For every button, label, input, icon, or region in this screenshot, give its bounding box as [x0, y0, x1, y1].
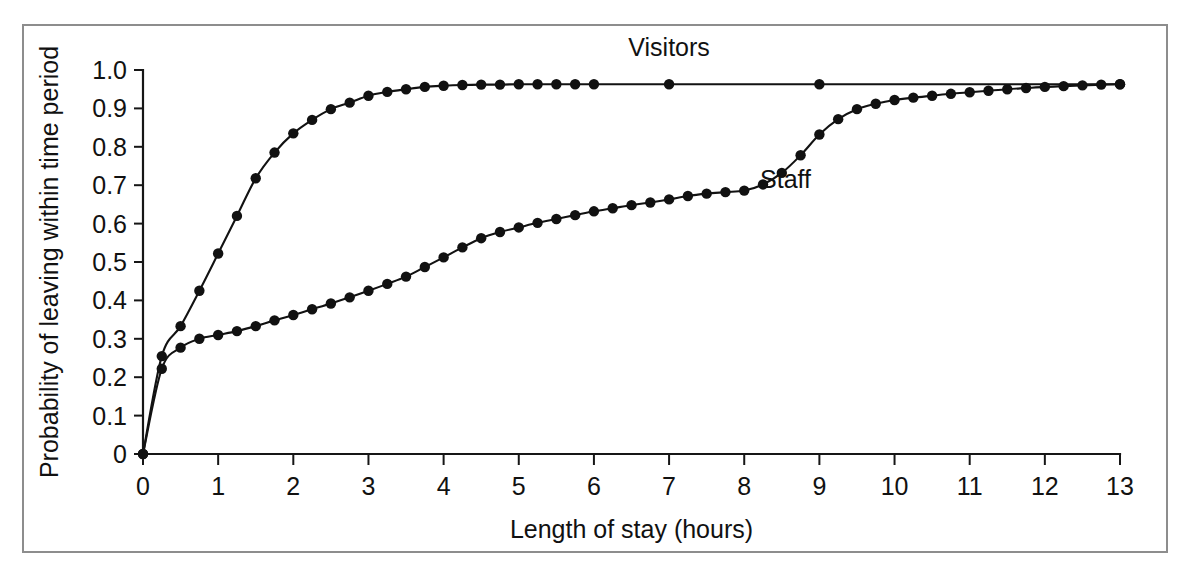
series-point-staff	[645, 197, 655, 207]
y-tick-label: 0.8	[92, 133, 127, 161]
series-point-staff	[495, 227, 505, 237]
y-tick-label: 0.7	[92, 171, 127, 199]
series-point-visitors	[664, 79, 674, 89]
series-point-visitors	[251, 173, 261, 183]
y-tick-label: 0.6	[92, 210, 127, 238]
series-point-staff	[664, 194, 674, 204]
series-point-staff	[138, 449, 148, 459]
series-point-staff	[1040, 82, 1050, 92]
y-tick-label: 1.0	[92, 56, 127, 84]
series-point-visitors	[307, 115, 317, 125]
x-tick-label: 8	[737, 472, 751, 500]
x-tick-label: 9	[812, 472, 826, 500]
figure-border-frame: 00.10.20.30.40.50.60.70.80.91.0012345678…	[22, 24, 1168, 553]
series-point-staff	[908, 92, 918, 102]
series-point-staff	[1115, 79, 1125, 89]
series-point-staff	[739, 185, 749, 195]
series-point-staff	[251, 321, 261, 331]
series-point-visitors	[213, 248, 223, 258]
series-point-staff	[307, 304, 317, 314]
series-point-visitors	[514, 79, 524, 89]
series-point-visitors	[589, 79, 599, 89]
series-point-visitors	[438, 81, 448, 91]
series-point-staff	[871, 99, 881, 109]
series-point-staff	[420, 262, 430, 272]
series-point-staff	[175, 342, 185, 352]
series-point-staff	[288, 310, 298, 320]
series-point-staff	[814, 129, 824, 139]
series-point-staff	[589, 206, 599, 216]
series-point-visitors	[382, 87, 392, 97]
series-point-staff	[683, 191, 693, 201]
series-point-staff	[194, 334, 204, 344]
series-point-staff	[532, 218, 542, 228]
series-point-staff	[946, 89, 956, 99]
x-tick-label: 2	[286, 472, 300, 500]
series-point-visitors	[532, 79, 542, 89]
series-label-visitors: Visitors	[628, 33, 710, 61]
x-tick-label: 1	[211, 472, 225, 500]
series-point-staff	[889, 95, 899, 105]
figure-caption	[22, 562, 1168, 584]
x-tick-label: 7	[662, 472, 676, 500]
series-point-staff	[927, 91, 937, 101]
series-point-visitors	[401, 84, 411, 94]
y-tick-label: 0.3	[92, 325, 127, 353]
x-tick-label: 13	[1106, 472, 1134, 500]
x-tick-label: 4	[437, 472, 451, 500]
series-point-staff	[570, 210, 580, 220]
y-tick-label: 0.2	[92, 363, 127, 391]
series-point-staff	[476, 233, 486, 243]
series-point-staff	[701, 188, 711, 198]
series-point-staff	[608, 203, 618, 213]
series-point-visitors	[344, 97, 354, 107]
series-point-staff	[514, 222, 524, 232]
x-tick-label: 5	[512, 472, 526, 500]
series-point-staff	[157, 364, 167, 374]
series-point-staff	[269, 315, 279, 325]
y-tick-label: 0.1	[92, 402, 127, 430]
series-point-visitors	[495, 79, 505, 89]
series-point-staff	[344, 292, 354, 302]
y-tick-label: 0.5	[92, 248, 127, 276]
series-point-visitors	[457, 80, 467, 90]
y-tick-label: 0	[113, 440, 127, 468]
series-point-staff	[382, 279, 392, 289]
y-tick-label: 0.4	[92, 286, 127, 314]
x-tick-label: 11	[957, 472, 983, 500]
series-point-visitors	[326, 104, 336, 114]
x-tick-label: 3	[362, 472, 376, 500]
series-label-staff: Staff	[760, 165, 811, 193]
series-point-staff	[795, 150, 805, 160]
series-point-staff	[720, 187, 730, 197]
x-tick-label: 6	[587, 472, 601, 500]
series-point-staff	[983, 86, 993, 96]
series-point-staff	[1096, 79, 1106, 89]
series-point-staff	[1058, 81, 1068, 91]
series-point-staff	[551, 214, 561, 224]
x-axis-title: Length of stay (hours)	[510, 515, 753, 543]
series-point-staff	[213, 330, 223, 340]
x-tick-label: 12	[1031, 472, 1059, 500]
series-point-staff	[833, 114, 843, 124]
series-point-visitors	[232, 211, 242, 221]
figure-root: 00.10.20.30.40.50.60.70.80.91.0012345678…	[0, 0, 1195, 586]
series-point-staff	[852, 104, 862, 114]
y-tick-label: 0.9	[92, 94, 127, 122]
series-point-staff	[457, 242, 467, 252]
series-point-visitors	[476, 79, 486, 89]
series-point-staff	[326, 298, 336, 308]
series-point-staff	[438, 252, 448, 262]
series-line-staff	[143, 84, 1120, 454]
series-point-visitors	[570, 79, 580, 89]
x-tick-label: 0	[136, 472, 150, 500]
series-line-visitors	[143, 84, 1120, 454]
series-point-staff	[626, 200, 636, 210]
series-point-staff	[1077, 80, 1087, 90]
series-point-staff	[232, 326, 242, 336]
series-point-visitors	[194, 286, 204, 296]
series-point-staff	[1002, 84, 1012, 94]
x-tick-label: 10	[881, 472, 909, 500]
series-point-staff	[363, 286, 373, 296]
y-axis-title: Probability of leaving within time perio…	[35, 46, 63, 478]
